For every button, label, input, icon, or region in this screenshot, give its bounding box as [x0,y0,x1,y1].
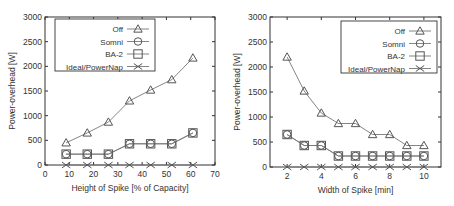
y-axis-label: Power-overhead [W] [232,53,242,130]
y-tick-label: 1000 [23,111,42,121]
x-tick-label: 40 [137,169,147,179]
triangle-marker [83,129,91,136]
y-tick-label: 3000 [23,12,42,22]
legend-label: Somni [382,40,405,49]
chart-height-of-spike: 050010001500200025003000010203040506070H… [0,0,227,206]
x-tick-label: 60 [186,169,196,179]
y-tick-label: 0 [262,162,267,172]
y-tick-label: 500 [28,135,42,145]
y-tick-label: 2500 [248,37,267,47]
y-tick-label: 0 [37,160,42,170]
legend-label: BA-2 [105,50,123,59]
series-ideal-powernap [62,162,197,168]
legend: OffSomniBA-2Ideal/PowerNap [341,21,437,74]
x-tick-label: 20 [89,169,99,179]
chart-width-of-spike: 050010001500200025003000246810Width of S… [227,0,454,206]
legend-label: Off [394,27,405,36]
legend-label: Off [112,25,123,34]
y-tick-label: 500 [253,137,267,147]
x-tick-label: 30 [113,169,123,179]
y-tick-label: 2500 [23,37,42,47]
triangle-marker [420,141,428,148]
x-tick-label: 10 [65,169,75,179]
triangle-marker [189,54,197,61]
x-tick-label: 50 [162,169,172,179]
legend-label: Ideal/PowerNap [348,65,405,74]
x-axis-label: Width of Spike [min] [318,185,394,195]
x-tick-label: 2 [285,171,290,181]
x-tick-label: 4 [319,171,324,181]
y-tick-label: 1500 [248,87,267,97]
triangle-marker [283,53,291,60]
series-ba-2 [62,129,197,159]
triangle-marker [125,97,133,104]
y-tick-label: 2000 [248,62,267,72]
x-axis-label: Height of Spike [% of Capacity] [71,183,188,193]
x-tick-label: 10 [419,171,429,181]
triangle-marker [146,86,154,93]
triangle-marker [62,139,70,146]
legend: OffSomniBA-2Ideal/PowerNap [55,19,155,72]
legend-label: Ideal/PowerNap [66,63,123,72]
x-tick-label: 8 [387,171,392,181]
y-tick-label: 3000 [248,12,267,22]
y-tick-label: 1500 [23,86,42,96]
x-tick-label: 70 [210,169,220,179]
y-tick-label: 2000 [23,61,42,71]
x-tick-label: 6 [353,171,358,181]
y-tick-label: 1000 [248,112,267,122]
legend-label: Somni [100,38,123,47]
legend-label: BA-2 [387,52,405,61]
x-tick-label: 0 [43,169,48,179]
y-axis-label: Power-overhead [W] [7,52,17,129]
